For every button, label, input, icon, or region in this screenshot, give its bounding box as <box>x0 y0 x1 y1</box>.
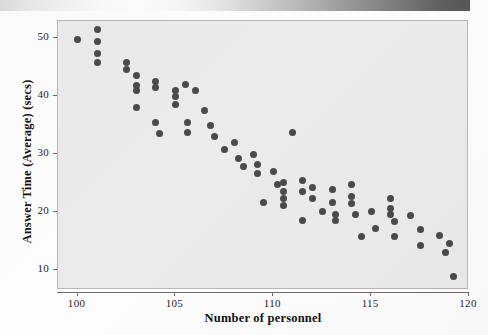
data-point <box>231 139 238 146</box>
x-tick-mark <box>370 292 371 296</box>
data-point <box>446 240 453 247</box>
data-point <box>358 233 365 240</box>
data-point <box>270 168 277 175</box>
scatter-plot-figure: 100105110115120 Number of personnel 1020… <box>0 11 488 335</box>
y-tick-mark <box>53 95 57 96</box>
data-point <box>299 188 306 195</box>
data-point <box>280 179 287 186</box>
data-point <box>172 101 179 108</box>
data-point <box>329 186 336 193</box>
data-point <box>133 72 140 79</box>
data-point <box>192 87 199 94</box>
data-point <box>329 199 336 206</box>
y-tick-mark <box>53 211 57 212</box>
data-point <box>184 119 191 126</box>
data-point <box>182 81 189 88</box>
data-point <box>289 129 296 136</box>
data-point <box>254 170 261 177</box>
data-point <box>436 232 443 239</box>
data-point <box>152 119 159 126</box>
data-point <box>368 208 375 215</box>
data-point <box>442 249 449 256</box>
y-axis-title: Answer Time (Average) (secs) <box>20 27 35 297</box>
data-point <box>235 155 242 162</box>
data-point <box>299 177 306 184</box>
data-point <box>387 211 394 218</box>
data-point <box>348 181 355 188</box>
data-point <box>417 226 424 233</box>
data-point <box>372 225 379 232</box>
data-point <box>387 195 394 202</box>
data-point <box>332 217 339 224</box>
y-tick-mark <box>53 153 57 154</box>
data-point <box>407 212 414 219</box>
data-point <box>417 242 424 249</box>
data-point <box>133 104 140 111</box>
data-point <box>94 38 101 45</box>
data-point <box>319 208 326 215</box>
data-point <box>260 199 267 206</box>
data-point <box>184 129 191 136</box>
data-point <box>352 211 359 218</box>
y-tick-mark <box>53 37 57 38</box>
plot-area <box>58 21 467 288</box>
x-tick-label: 120 <box>448 297 488 309</box>
data-point <box>221 146 228 153</box>
data-point <box>280 195 287 202</box>
data-point <box>391 218 398 225</box>
x-tick-mark <box>174 292 175 296</box>
data-point <box>94 26 101 33</box>
data-point <box>123 59 130 66</box>
data-point <box>348 193 355 200</box>
data-point <box>280 188 287 195</box>
data-point <box>299 217 306 224</box>
data-point <box>250 151 257 158</box>
data-point <box>309 184 316 191</box>
figure-page: 100105110115120 Number of personnel 1020… <box>0 0 488 335</box>
data-point <box>133 87 140 94</box>
data-point <box>94 59 101 66</box>
y-tick-mark <box>53 269 57 270</box>
data-point <box>74 36 81 43</box>
data-point <box>254 161 261 168</box>
x-tick-label: 110 <box>252 297 292 309</box>
data-point <box>172 93 179 100</box>
x-tick-mark <box>468 292 469 296</box>
data-point <box>152 84 159 91</box>
x-tick-label: 100 <box>57 297 97 309</box>
data-point <box>201 107 208 114</box>
data-point <box>348 200 355 207</box>
data-point <box>240 163 247 170</box>
x-tick-mark <box>272 292 273 296</box>
x-tick-mark <box>77 292 78 296</box>
data-point <box>280 202 287 209</box>
data-point <box>450 273 457 280</box>
scan-gradient-strip <box>0 0 470 11</box>
data-point <box>156 130 163 137</box>
plot-frame <box>57 20 468 289</box>
x-axis-line <box>57 292 469 293</box>
x-tick-label: 105 <box>154 297 194 309</box>
data-point <box>211 133 218 140</box>
x-axis-title: Number of personnel <box>57 311 469 326</box>
data-point <box>94 50 101 57</box>
data-point <box>123 66 130 73</box>
data-point <box>391 233 398 240</box>
data-point <box>309 195 316 202</box>
x-tick-label: 115 <box>350 297 390 309</box>
data-point <box>207 122 214 129</box>
